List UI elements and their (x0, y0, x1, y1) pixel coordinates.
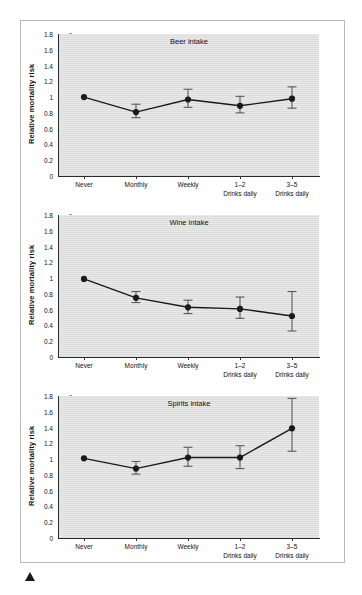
chart-panel-spirits: Relative mortality risk 00.20.40.60.811.… (21, 383, 346, 564)
filled-circle-marker (237, 103, 243, 109)
chart-panel-beer: Relative mortality risk 00.20.40.60.811.… (21, 21, 346, 202)
filled-circle-marker (185, 454, 191, 460)
filled-circle-marker (185, 96, 191, 102)
filled-circle-marker (237, 306, 243, 312)
filled-circle-marker (133, 295, 139, 301)
filled-circle-marker (289, 425, 295, 431)
filled-circle-marker (81, 455, 87, 461)
figure-frame: Relative mortality risk 00.20.40.60.811.… (20, 20, 345, 563)
filled-circle-marker (237, 454, 243, 460)
filled-circle-marker (133, 109, 139, 115)
solid-triangle-marker (25, 572, 35, 581)
filled-circle-marker (81, 94, 87, 100)
filled-circle-marker (133, 465, 139, 471)
error-bar (288, 398, 297, 451)
data-series (21, 202, 346, 383)
filled-circle-marker (289, 313, 295, 319)
filled-circle-marker (81, 276, 87, 282)
error-bar (288, 292, 297, 331)
data-series (21, 21, 346, 202)
data-series (21, 383, 346, 564)
filled-circle-marker (185, 304, 191, 310)
filled-circle-marker (289, 96, 295, 102)
chart-panel-wine: Relative mortality risk 00.20.40.60.811.… (21, 202, 346, 383)
